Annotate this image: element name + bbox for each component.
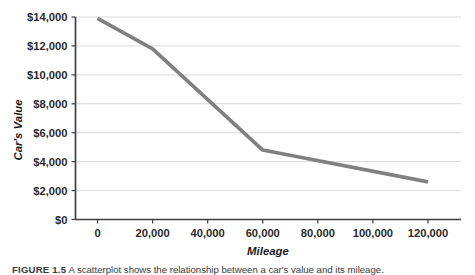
y-tick-label: $6,000 bbox=[33, 127, 67, 139]
y-axis-title: Car's Value bbox=[12, 99, 24, 161]
figure-container: $0$2,000$4,000$6,000$8,000$10,000$12,000… bbox=[0, 0, 475, 275]
y-tick-label: $14,000 bbox=[27, 11, 67, 23]
y-tick-label: $0 bbox=[55, 214, 67, 226]
x-axis-title: Mileage bbox=[247, 245, 289, 257]
chart-canvas: $0$2,000$4,000$6,000$8,000$10,000$12,000… bbox=[0, 0, 475, 258]
y-tick-label: $10,000 bbox=[27, 69, 67, 81]
y-axis-tick-labels: $0$2,000$4,000$6,000$8,000$10,000$12,000… bbox=[27, 11, 67, 226]
x-axis-tick-labels: 020,00040,00060,00080,000100,000120,000 bbox=[94, 227, 448, 239]
x-tick-label: 0 bbox=[94, 227, 100, 239]
x-tick-label: 100,000 bbox=[353, 227, 393, 239]
x-tick-label: 120,000 bbox=[408, 227, 448, 239]
x-tick-label: 80,000 bbox=[301, 227, 335, 239]
x-tick-label: 60,000 bbox=[246, 227, 280, 239]
figure-caption-text: A scatterplot shows the relationship bet… bbox=[68, 264, 383, 275]
y-tick-label: $12,000 bbox=[27, 40, 67, 52]
x-tick-label: 20,000 bbox=[135, 227, 169, 239]
figure-caption: FIGURE 1.5 A scatterplot shows the relat… bbox=[12, 264, 467, 275]
data-series-line bbox=[98, 18, 428, 181]
y-tick-label: $8,000 bbox=[33, 98, 67, 110]
gridlines bbox=[76, 17, 462, 191]
y-tick-label: $2,000 bbox=[33, 185, 67, 197]
x-tick-label: 40,000 bbox=[191, 227, 225, 239]
y-tick-label: $4,000 bbox=[33, 156, 67, 168]
figure-caption-label: FIGURE 1.5 bbox=[12, 264, 66, 275]
line-chart: $0$2,000$4,000$6,000$8,000$10,000$12,000… bbox=[0, 0, 475, 258]
